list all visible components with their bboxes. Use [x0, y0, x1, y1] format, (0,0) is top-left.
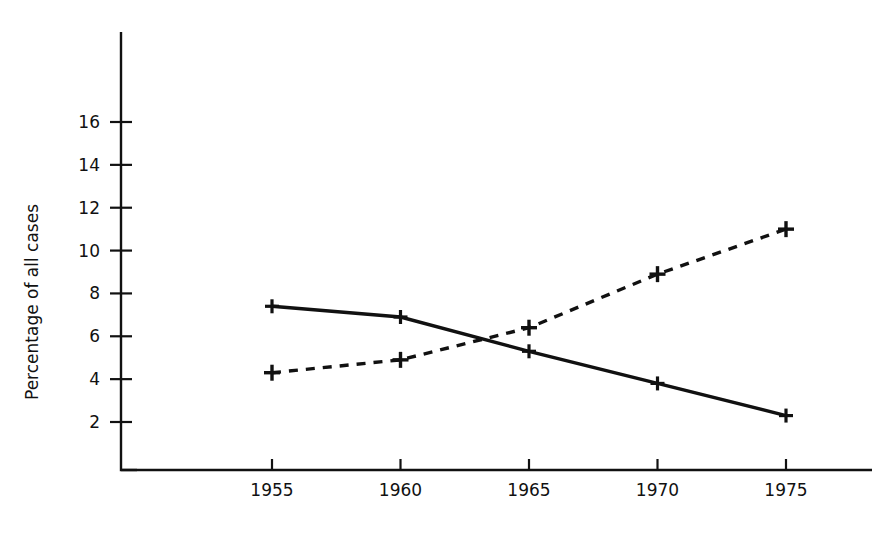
series-group: [264, 221, 794, 422]
x-tick-label-1975: 1975: [764, 480, 807, 500]
data-point-solid-series-1970[interactable]: [651, 376, 665, 390]
x-tick-label-1970: 1970: [636, 480, 679, 500]
y-tick-label-8: 8: [89, 283, 100, 303]
y-tick-label-16: 16: [78, 112, 100, 132]
y-tick-label-4: 4: [89, 369, 100, 389]
y-tick-label-12: 12: [78, 198, 100, 218]
axes-group: [121, 32, 872, 470]
data-point-dashed-series-1965[interactable]: [521, 320, 537, 336]
y-tick-label-6: 6: [89, 326, 100, 346]
data-point-dashed-series-1960[interactable]: [393, 352, 409, 368]
x-tick-label-1955: 1955: [250, 480, 293, 500]
data-point-dashed-series-1955[interactable]: [264, 365, 280, 381]
x-tick-label-1960: 1960: [379, 480, 422, 500]
y-tick-label-2: 2: [89, 412, 100, 432]
y-tick-label-10: 10: [78, 241, 100, 261]
data-point-dashed-series-1970[interactable]: [650, 266, 666, 282]
data-point-solid-series-1975[interactable]: [779, 409, 793, 423]
y-axis-title: Percentage of all cases: [22, 204, 42, 400]
data-point-solid-series-1960[interactable]: [394, 310, 408, 324]
data-point-dashed-series-1975[interactable]: [778, 221, 794, 237]
tick-labels-group: 24681012141619551960196519701975: [78, 112, 807, 500]
data-point-solid-series-1955[interactable]: [265, 299, 279, 313]
plot-area: 24681012141619551960196519701975: [0, 0, 889, 544]
data-point-solid-series-1965[interactable]: [522, 344, 536, 358]
chart-figure: 24681012141619551960196519701975 Percent…: [0, 0, 889, 544]
ticks-group: [110, 122, 786, 471]
axis-lines: [121, 32, 872, 470]
y-tick-label-14: 14: [78, 155, 100, 175]
x-tick-label-1965: 1965: [507, 480, 550, 500]
